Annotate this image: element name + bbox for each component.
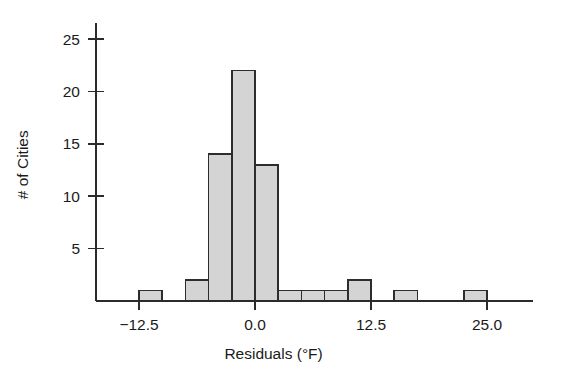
- y-tick-label: 20: [63, 83, 81, 100]
- x-tick-label: 0.0: [244, 316, 266, 333]
- histogram-bar: [255, 165, 278, 301]
- histogram-bar: [209, 154, 232, 301]
- histogram-bar: [394, 291, 417, 301]
- y-tick-label: 25: [63, 31, 80, 48]
- y-tick-label: 10: [63, 188, 81, 205]
- histogram-figure: 510152025 −12.50.012.525.0 Residuals (°F…: [0, 0, 581, 387]
- histogram-plot: 510152025 −12.50.012.525.0 Residuals (°F…: [0, 0, 581, 387]
- x-tick-label: 25.0: [472, 316, 503, 333]
- y-axis-title: # of Cities: [14, 130, 31, 199]
- y-axis-ticks: 510152025: [63, 31, 104, 258]
- x-tick-label: −12.5: [119, 316, 158, 333]
- bars-group: [139, 70, 487, 301]
- axes-group: [96, 23, 533, 301]
- x-axis-title: Residuals (°F): [224, 345, 322, 362]
- x-tick-label: 12.5: [356, 316, 386, 333]
- y-tick-label: 5: [71, 240, 80, 257]
- histogram-bar: [278, 291, 301, 301]
- y-tick-label: 15: [63, 135, 80, 152]
- histogram-bar: [301, 291, 324, 301]
- histogram-bar: [348, 280, 371, 301]
- histogram-bar: [232, 70, 255, 301]
- histogram-bar: [185, 280, 208, 301]
- histogram-bar: [139, 291, 162, 301]
- histogram-bar: [464, 291, 487, 301]
- histogram-bar: [325, 291, 348, 301]
